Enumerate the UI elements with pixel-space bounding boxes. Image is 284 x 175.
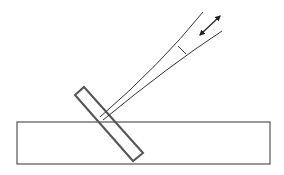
upper-diverging-line: [100, 12, 203, 117]
tilted-probe: [75, 87, 143, 161]
horizontal-slab: [17, 122, 270, 164]
double-arrow-icon: [200, 16, 220, 35]
cross-tick: [178, 46, 186, 54]
diagram-canvas: [0, 0, 284, 175]
lower-diverging-line: [103, 31, 222, 120]
